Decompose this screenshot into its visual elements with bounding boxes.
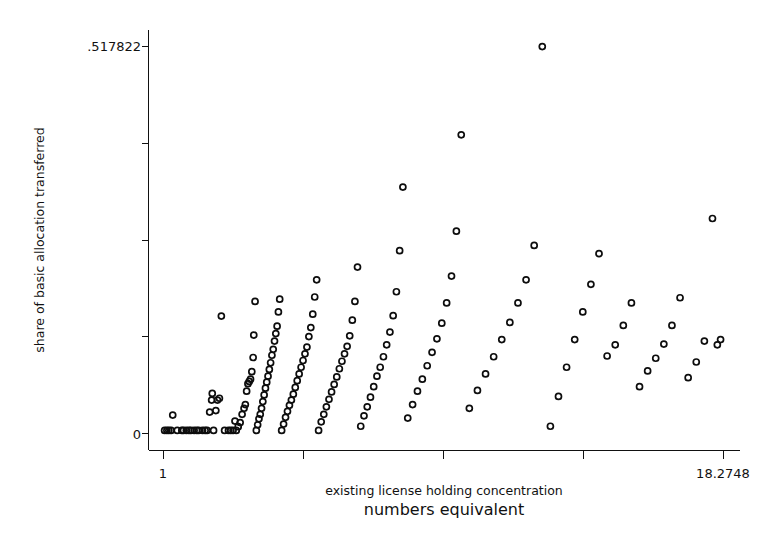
data-point xyxy=(645,368,651,374)
data-point xyxy=(292,384,298,390)
plot-canvas: .517822 0 1 18.2748 existing license hol… xyxy=(0,0,779,537)
data-point xyxy=(377,364,383,370)
data-point xyxy=(361,413,367,419)
data-point xyxy=(380,354,386,360)
data-point xyxy=(306,334,312,340)
data-point xyxy=(429,349,435,355)
data-point xyxy=(588,281,594,287)
data-point xyxy=(661,341,667,347)
data-point xyxy=(270,346,276,352)
data-point xyxy=(523,277,529,283)
data-point xyxy=(347,333,353,339)
data-point xyxy=(539,44,545,50)
x-axis-left-tick-label: 1 xyxy=(159,466,167,481)
data-point xyxy=(259,405,265,411)
data-point xyxy=(397,248,403,254)
data-point xyxy=(262,385,268,391)
data-point xyxy=(474,387,480,393)
data-point xyxy=(342,351,348,357)
y-axis-ticks xyxy=(142,47,149,434)
data-point xyxy=(252,298,258,304)
data-point xyxy=(419,376,425,382)
data-point xyxy=(314,277,320,283)
data-point xyxy=(300,358,306,364)
data-point xyxy=(304,344,310,350)
data-point xyxy=(393,289,399,295)
data-point xyxy=(294,378,300,384)
data-point xyxy=(620,322,626,328)
data-point xyxy=(260,399,266,405)
data-point xyxy=(244,388,250,394)
data-point xyxy=(367,394,373,400)
data-point xyxy=(261,392,267,398)
data-point xyxy=(531,242,537,248)
data-point xyxy=(685,375,691,381)
data-point xyxy=(251,332,257,338)
data-point xyxy=(580,309,586,315)
data-point xyxy=(371,384,377,390)
data-point xyxy=(275,309,281,315)
data-point xyxy=(290,391,296,397)
x-axis-ticks xyxy=(164,451,724,459)
data-point xyxy=(564,364,570,370)
scatter-plot-figure: .517822 0 1 18.2748 existing license hol… xyxy=(0,0,779,537)
data-point xyxy=(612,342,618,348)
data-point xyxy=(326,396,332,402)
data-point xyxy=(250,355,256,361)
data-point xyxy=(677,295,683,301)
data-point xyxy=(718,337,724,343)
data-point xyxy=(352,298,358,304)
data-point xyxy=(211,427,217,433)
x-axis-title: existing license holding concentration xyxy=(325,483,563,498)
data-point xyxy=(669,322,675,328)
data-point xyxy=(449,273,455,279)
data-point xyxy=(207,409,213,415)
data-point xyxy=(596,251,602,257)
data-point xyxy=(323,404,329,410)
data-point xyxy=(414,388,420,394)
data-point xyxy=(218,313,224,319)
data-point xyxy=(483,371,489,377)
x-axis-right-tick-label: 18.2748 xyxy=(696,466,750,481)
data-point xyxy=(400,184,406,190)
data-point xyxy=(266,366,272,372)
data-points-layer xyxy=(162,44,724,434)
data-point xyxy=(274,323,280,329)
data-point xyxy=(279,427,285,433)
data-point xyxy=(364,404,370,410)
data-point xyxy=(693,359,699,365)
data-point xyxy=(268,360,274,366)
data-point xyxy=(390,313,396,319)
data-point xyxy=(444,300,450,306)
data-point xyxy=(213,408,219,414)
data-point xyxy=(296,371,302,377)
data-point xyxy=(316,427,322,433)
data-point xyxy=(434,336,440,342)
y-axis-bottom-tick-label: 0 xyxy=(133,427,141,442)
data-point xyxy=(339,358,345,364)
data-point xyxy=(269,352,275,358)
data-point xyxy=(384,342,390,348)
data-point xyxy=(628,300,634,306)
data-point xyxy=(170,412,176,418)
data-point xyxy=(209,390,215,396)
data-point xyxy=(424,363,430,369)
data-point xyxy=(387,329,393,335)
data-point xyxy=(310,311,316,317)
data-point xyxy=(374,373,380,379)
data-point xyxy=(405,415,411,421)
data-point xyxy=(329,389,335,395)
data-point xyxy=(572,337,578,343)
data-point xyxy=(653,355,659,361)
data-point xyxy=(312,294,318,300)
y-axis-title: share of basic allocation transferred xyxy=(32,127,47,352)
data-point xyxy=(458,132,464,138)
data-point xyxy=(239,411,245,417)
data-point xyxy=(491,354,497,360)
data-point xyxy=(249,369,255,375)
data-point xyxy=(466,405,472,411)
data-point xyxy=(321,411,327,417)
data-point xyxy=(709,216,715,222)
data-point xyxy=(507,319,513,325)
data-point xyxy=(453,228,459,234)
